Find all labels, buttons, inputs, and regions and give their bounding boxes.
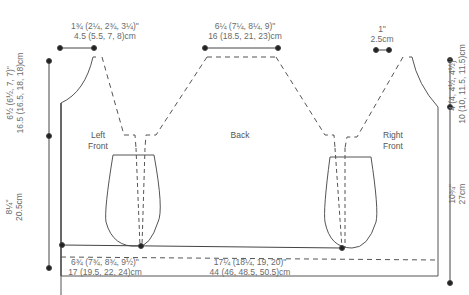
left-body-length-metric: 20.5cm [14,182,24,232]
left-shoulder-imperial: 1¾ (2¼, 2¾, 3¼)" [40,21,170,31]
left-armhole-label: 6½ (6½, 7, 7)" 16.5 (16.5, 18, 18)cm [5,38,27,148]
back-neck-imperial: 6¼ (7¼, 8¼, 9)" [180,21,310,31]
right-body-length-label: 10¾" 27cm [447,169,469,219]
back-neck-label: 6¼ (7¼, 8¼, 9)" 16 (18.5, 21, 23)cm [180,21,310,41]
left-body-length-label: 8¼" 20.5cm [4,182,26,232]
back-neck-metric: 16 (18.5, 21, 23)cm [180,31,310,41]
right-shoulder-imperial: 1" [362,24,402,34]
right-pocket-dashed [335,148,345,248]
back-label: Back [220,130,260,141]
right-armhole-metric: 10 (10, 11.5, 11.5)cm [457,34,467,134]
left-front-label: Left Front [78,130,118,152]
back-right-dashed [276,57,335,148]
left-armhole-metric: 16.5 (16.5, 18, 18)cm [15,38,25,148]
right-armhole-label: 4 (4, 4½, 4½)" 10 (10, 11.5, 11.5)cm [447,34,469,134]
left-front-line2: Front [78,141,118,152]
front-width-imperial: 6¾ (7¾, 8¾, 9½)" [40,257,170,267]
back-line1: Back [220,130,260,141]
right-body-length-imperial: 10¾" [447,169,457,219]
left-pocket-dashed [136,148,145,246]
dim-bottom-width [62,245,342,248]
right-body-length-metric: 27cm [457,169,467,219]
back-width-imperial: 17¼ (18¼, 19, 20)" [180,257,320,267]
front-width-metric: 17 (19.5, 22, 24)cm [40,267,170,277]
back-left-dashed [145,57,207,148]
front-width-label: 6¾ (7¾, 8¾, 9½)" 17 (19.5, 22, 24)cm [40,257,170,277]
left-shoulder-metric: 4.5 (5.5, 7, 8)cm [40,31,170,41]
right-shoulder-label: 1" 2.5cm [362,24,402,44]
left-front-line1: Left [78,130,118,141]
back-width-label: 17¼ (18¼, 19, 20)" 44 (46, 48.5, 50.5)cm [180,257,320,277]
right-pocket [325,157,377,248]
right-front-line1: Right [373,130,413,141]
left-pocket [106,155,161,246]
right-front-line2: Front [373,141,413,152]
left-armhole-imperial: 6½ (6½, 7, 7)" [5,38,15,148]
right-front-label: Right Front [373,130,413,152]
left-body-length-imperial: 8¼" [4,182,14,232]
left-shoulder-label: 1¾ (2¼, 2¾, 3¼)" 4.5 (5.5, 7, 8)cm [40,21,170,41]
right-shoulder-metric: 2.5cm [362,34,402,44]
right-armhole-imperial: 4 (4, 4½, 4½)" [447,34,457,134]
back-width-metric: 44 (46, 48.5, 50.5)cm [180,267,320,277]
